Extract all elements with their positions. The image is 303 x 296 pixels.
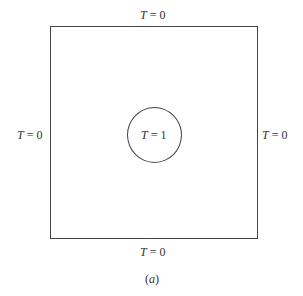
inner-circle-label: T = 1 (141, 128, 166, 143)
bottom-boundary-label: T = 0 (140, 245, 165, 260)
left-boundary-label: T = 0 (17, 128, 42, 143)
figure-caption: (a) (145, 272, 159, 287)
right-boundary-label: T = 0 (262, 128, 287, 143)
top-boundary-label: T = 0 (140, 8, 165, 23)
